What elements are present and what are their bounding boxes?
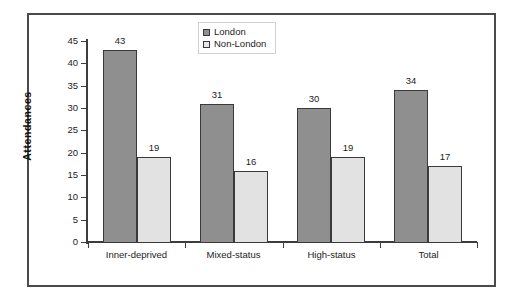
y-tick-mark [81,220,87,221]
y-tick-label: 30 [54,103,78,113]
y-tick-label: 15 [54,170,78,180]
y-tick-label: 25 [54,125,78,135]
y-tick-mark [81,242,87,243]
y-tick-label-wrap: 35 [52,86,78,87]
y-tick-label: 35 [54,81,78,91]
y-tick-label-wrap: 40 [52,63,78,64]
bar-value-label: 31 [200,90,234,100]
x-axis-label-inner-deprived: Inner-deprived [88,250,185,260]
bar-value-label: 43 [103,36,137,46]
y-tick-mark [81,197,87,198]
bar-value-label: 19 [331,143,365,153]
legend-label-london: London [214,27,246,37]
bar-inner-deprived-non-london [137,157,171,243]
bar-value-label: 17 [428,152,462,162]
y-tick-label-wrap: 5 [52,220,78,221]
legend-label-non-london: Non-London [214,39,266,49]
legend-swatch-icon-london [203,29,210,36]
x-tick-mark [283,242,284,248]
x-axis-label-high-status: High-status [283,250,380,260]
chart-figure: Attendances 051015202530354045 431931163… [0,0,522,303]
bar-value-label: 30 [297,94,331,104]
bar-value-label: 16 [234,157,268,167]
chart-legend: London Non-London [198,22,276,54]
y-tick-mark [81,108,87,109]
bar-total-london [394,90,428,243]
bar-high-status-non-london [331,157,365,243]
y-axis-line [86,39,88,244]
y-tick-mark [81,175,87,176]
y-tick-label-wrap: 0 [52,242,78,243]
y-tick-label: 0 [54,237,78,247]
y-tick-mark [81,153,87,154]
y-tick-label-wrap: 45 [52,41,78,42]
plot-area: Attendances 051015202530354045 431931163… [0,0,522,303]
bar-high-status-london [297,108,331,243]
legend-item-london: London [203,26,266,38]
y-tick-label: 40 [54,58,78,68]
legend-item-non-london: Non-London [203,38,266,50]
y-tick-mark [81,86,87,87]
y-tick-label-wrap: 20 [52,153,78,154]
y-tick-label-wrap: 30 [52,108,78,109]
x-tick-mark [88,242,89,248]
y-tick-label: 10 [54,192,78,202]
y-tick-label-wrap: 25 [52,130,78,131]
x-tick-mark [477,242,478,248]
y-tick-label-wrap: 15 [52,175,78,176]
bar-mixed-status-non-london [234,171,268,243]
y-tick-label: 20 [54,148,78,158]
x-axis-label-mixed-status: Mixed-status [185,250,282,260]
x-axis-label-total: Total [380,250,477,260]
y-axis-title: Attendances [21,66,33,186]
y-tick-mark [81,130,87,131]
bar-value-label: 34 [394,76,428,86]
legend-swatch-icon-non-london [203,41,210,48]
bar-total-non-london [428,166,462,243]
bar-inner-deprived-london [103,50,137,243]
y-tick-label: 45 [54,36,78,46]
x-tick-mark [380,242,381,248]
y-tick-mark [81,41,87,42]
y-tick-label-wrap: 10 [52,197,78,198]
x-tick-mark [185,242,186,248]
y-tick-mark [81,63,87,64]
y-tick-label: 5 [54,215,78,225]
bar-value-label: 19 [137,143,171,153]
bar-mixed-status-london [200,104,234,243]
